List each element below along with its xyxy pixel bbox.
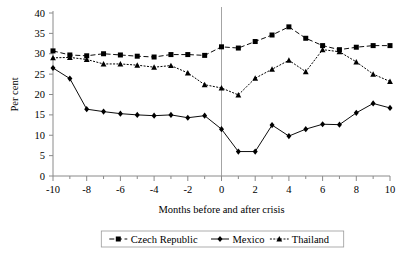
data-point-marker [168,52,173,57]
data-point-marker [236,46,241,51]
data-point-marker [354,110,359,116]
x-axis-tick-label: 0 [219,184,224,195]
data-point-marker [185,70,191,75]
data-point-marker [168,112,173,118]
x-axis-tick-label: -6 [116,184,125,195]
line-chart: 0510152025303540-10-8-6-4-20246810Months… [0,0,412,270]
data-point-marker [353,59,359,64]
data-point-marker [202,82,208,87]
x-axis-tick-label: 10 [385,184,396,195]
y-axis-tick-label: 15 [35,109,46,120]
data-point-marker [101,51,106,56]
data-point-marker [101,61,107,66]
legend-label: Czech Republic [131,234,198,245]
data-point-marker [135,112,140,118]
data-point-marker [354,45,359,50]
data-point-marker [269,66,275,71]
data-point-marker [388,105,393,111]
data-point-marker [67,76,72,82]
legend-label: Thailand [292,234,330,245]
data-point-marker [253,39,258,44]
data-point-marker [303,69,309,74]
data-point-marker [320,121,325,127]
legend-label: Mexico [233,234,265,245]
x-axis-tick-label: -10 [46,184,60,195]
data-point-marker [135,54,140,59]
x-axis-tick-label: -8 [82,184,91,195]
x-axis-tick-label: 4 [286,184,292,195]
y-axis-tick-label: 5 [40,150,45,161]
y-axis-tick-label: 20 [35,89,46,100]
data-point-marker [235,92,241,97]
data-point-marker [387,79,393,84]
data-point-marker [337,122,342,128]
y-axis-tick-label: 0 [40,171,45,182]
data-point-marker [51,48,56,53]
data-point-marker [252,75,258,80]
data-point-marker [202,113,207,119]
x-axis-tick-label: 6 [320,184,325,195]
data-point-marker [286,24,291,29]
data-point-marker [286,133,291,139]
x-axis-tick-label: 8 [354,184,359,195]
x-axis-title: Months before and after crisis [159,204,285,215]
data-point-marker [118,52,123,57]
y-axis-tick-label: 30 [35,48,46,59]
x-axis-tick-label: -2 [183,184,192,195]
data-point-marker [50,55,56,60]
data-point-marker [101,109,106,115]
data-point-marker [303,126,308,132]
data-point-marker [388,43,393,48]
data-point-marker [371,43,376,48]
y-axis-tick-label: 25 [35,69,46,80]
legend-marker-square [116,237,121,242]
data-point-marker [152,55,157,60]
chart-figure: 0510152025303540-10-8-6-4-20246810Months… [0,0,412,270]
data-point-marker [303,36,308,41]
data-point-marker [185,115,190,121]
data-point-marker [371,100,376,106]
data-point-marker [185,52,190,57]
data-point-marker [270,33,275,38]
y-axis-tick-label: 10 [35,130,46,141]
data-point-marker [51,65,56,71]
x-axis-tick-label: 2 [253,184,258,195]
data-point-marker [202,53,207,58]
data-point-marker [118,111,123,117]
data-point-marker [84,106,89,112]
y-axis-title: Per cent [9,77,20,111]
x-axis-tick-label: -4 [150,184,159,195]
y-axis-tick-label: 35 [35,28,46,39]
data-point-marker [219,44,224,49]
data-point-marker [152,113,157,119]
data-point-marker [286,57,292,62]
y-axis-tick-label: 40 [35,8,46,19]
